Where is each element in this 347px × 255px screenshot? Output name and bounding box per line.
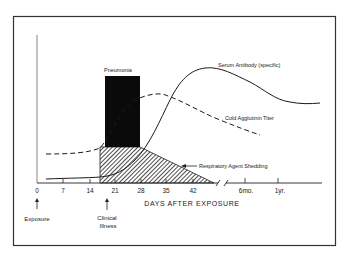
clinical-illness-label-line2: Illness bbox=[99, 223, 116, 229]
x-axis-title: DAYS AFTER EXPOSURE bbox=[144, 200, 239, 207]
chart: Pneumonia Serum Antibody (specific) Cold… bbox=[0, 0, 347, 255]
shedding-label: Respiratory Agent Shedding bbox=[199, 163, 268, 169]
pneumonia-label: Pneumonia bbox=[104, 67, 133, 73]
svg-text:0: 0 bbox=[35, 187, 39, 194]
svg-text:21: 21 bbox=[111, 187, 119, 194]
exposure-label: Exposure bbox=[24, 216, 50, 222]
svg-text:35: 35 bbox=[162, 187, 170, 194]
serum-antibody-curve bbox=[46, 68, 320, 179]
serum-antibody-label: Serum Antibody (specific) bbox=[218, 62, 281, 68]
shedding-area bbox=[100, 147, 214, 183]
svg-text:1yr.: 1yr. bbox=[275, 187, 286, 195]
cold-agglutinin-label: Cold Agglutinin Titer bbox=[225, 115, 274, 121]
arrowhead-icon bbox=[105, 198, 109, 202]
clinical-illness-label-line1: Clinical bbox=[97, 215, 116, 221]
cold-agglutinin-curve bbox=[46, 94, 260, 154]
chart-frame bbox=[14, 17, 336, 246]
svg-text:28: 28 bbox=[137, 187, 145, 194]
svg-text:14: 14 bbox=[86, 187, 94, 194]
arrowhead-icon bbox=[35, 198, 39, 202]
svg-text:42: 42 bbox=[189, 187, 197, 194]
svg-text:7: 7 bbox=[61, 187, 65, 194]
svg-text:6mo.: 6mo. bbox=[239, 187, 254, 194]
tick-labels: 0 7 14 21 28 35 42 6mo. 1yr. bbox=[35, 187, 285, 195]
